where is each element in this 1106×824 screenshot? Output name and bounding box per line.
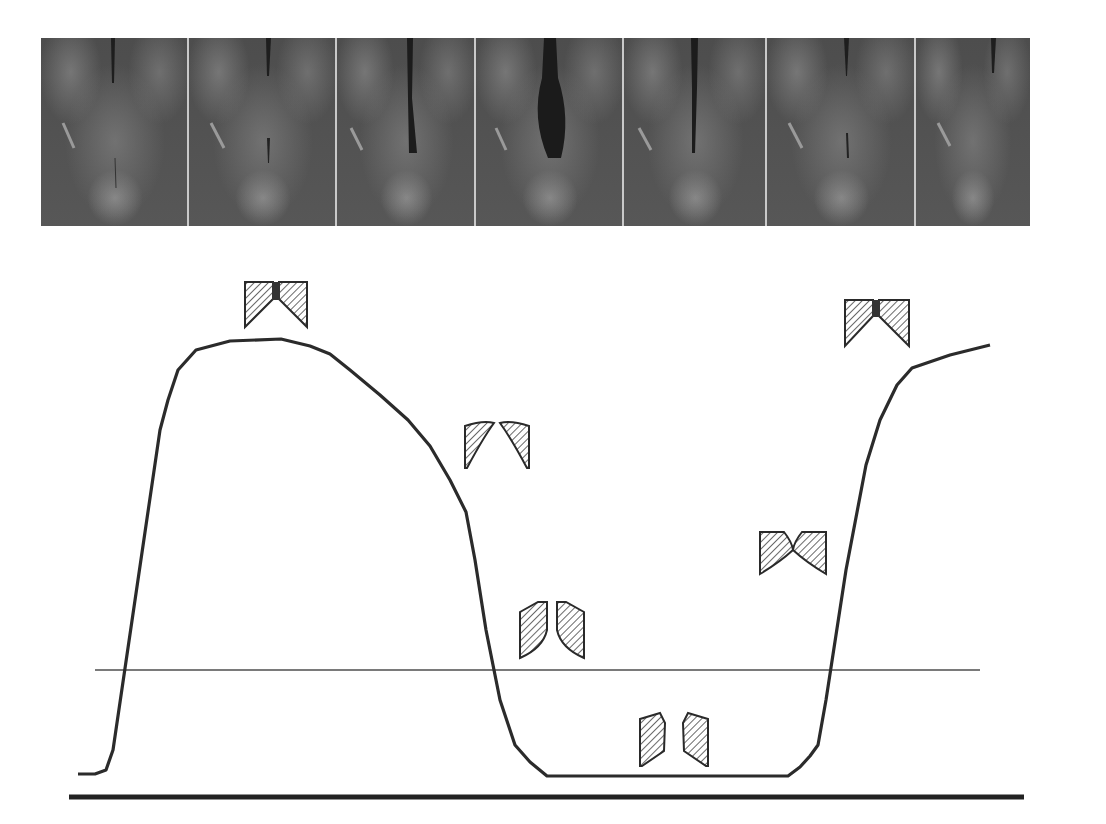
glottal-waveform-diagram <box>0 0 1106 824</box>
fold-schematic-6 <box>845 300 909 346</box>
fold-schematic-5 <box>760 532 826 574</box>
fold-schematic-1 <box>245 282 307 327</box>
glottal-waveform-curve <box>78 339 990 776</box>
fold-schematic-3 <box>520 602 584 658</box>
fold-schematic-2 <box>465 422 529 468</box>
fold-schematic-4 <box>640 713 708 766</box>
